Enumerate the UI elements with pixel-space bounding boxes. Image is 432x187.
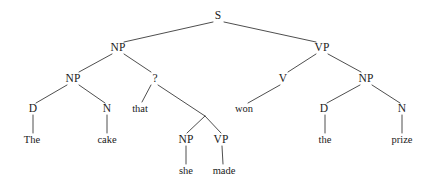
tree-edge-s-to-vp1: [224, 22, 316, 42]
tree-edge-np1-to-np2: [79, 54, 112, 72]
tree-edge-v-to-won: [248, 85, 280, 103]
tree-node-s: S: [215, 10, 222, 22]
tree-node-cake: cake: [97, 135, 116, 146]
tree-node-d2: D: [320, 103, 329, 115]
tree-edge-unknown-to-clausejoin: [158, 85, 205, 116]
tree-edge-np2-to-d1: [36, 85, 67, 103]
tree-edge-clausejoin-to-np4: [187, 116, 205, 133]
syntax-tree-figure: SNPVPNP?VNPDNthatwonDNThecakeNPVPthepriz…: [0, 0, 432, 187]
tree-edge-np3-to-n2: [372, 85, 400, 103]
tree-node-made: made: [213, 166, 236, 177]
tree-edge-vp2-to-made: [222, 146, 223, 164]
tree-edge-vp1-to-v: [288, 54, 316, 72]
tree-node-np4: NP: [178, 134, 193, 146]
tree-node-n1: N: [103, 103, 112, 115]
tree-node-vp2: VP: [213, 134, 228, 146]
tree-edge-np2-to-n1: [79, 85, 105, 103]
tree-node-np2: NP: [65, 73, 80, 85]
tree-node-prize: prize: [392, 135, 413, 146]
tree-node-np1: NP: [110, 42, 125, 54]
tree-edge-np1-to-unknown: [124, 54, 151, 72]
tree-edge-clausejoin-to-vp2: [205, 116, 221, 133]
tree-edge-np3-to-d2: [327, 85, 360, 103]
tree-edges-layer: [0, 0, 432, 187]
tree-node-the1: The: [24, 135, 40, 146]
tree-node-won: won: [235, 104, 253, 115]
tree-node-she: she: [179, 166, 193, 177]
tree-node-n2: N: [398, 103, 407, 115]
tree-edge-s-to-np1: [124, 22, 213, 42]
tree-node-v: V: [279, 73, 288, 85]
tree-node-unknown: ?: [152, 73, 157, 85]
tree-edge-unknown-to-that: [142, 85, 151, 102]
tree-node-that: that: [132, 104, 148, 115]
tree-node-vp1: VP: [314, 42, 329, 54]
tree-node-d1: D: [29, 103, 38, 115]
tree-node-np3: NP: [358, 73, 373, 85]
tree-node-the2: the: [319, 135, 332, 146]
tree-junction-clausejoin: [205, 116, 206, 117]
tree-edge-vp1-to-np3: [328, 54, 361, 72]
